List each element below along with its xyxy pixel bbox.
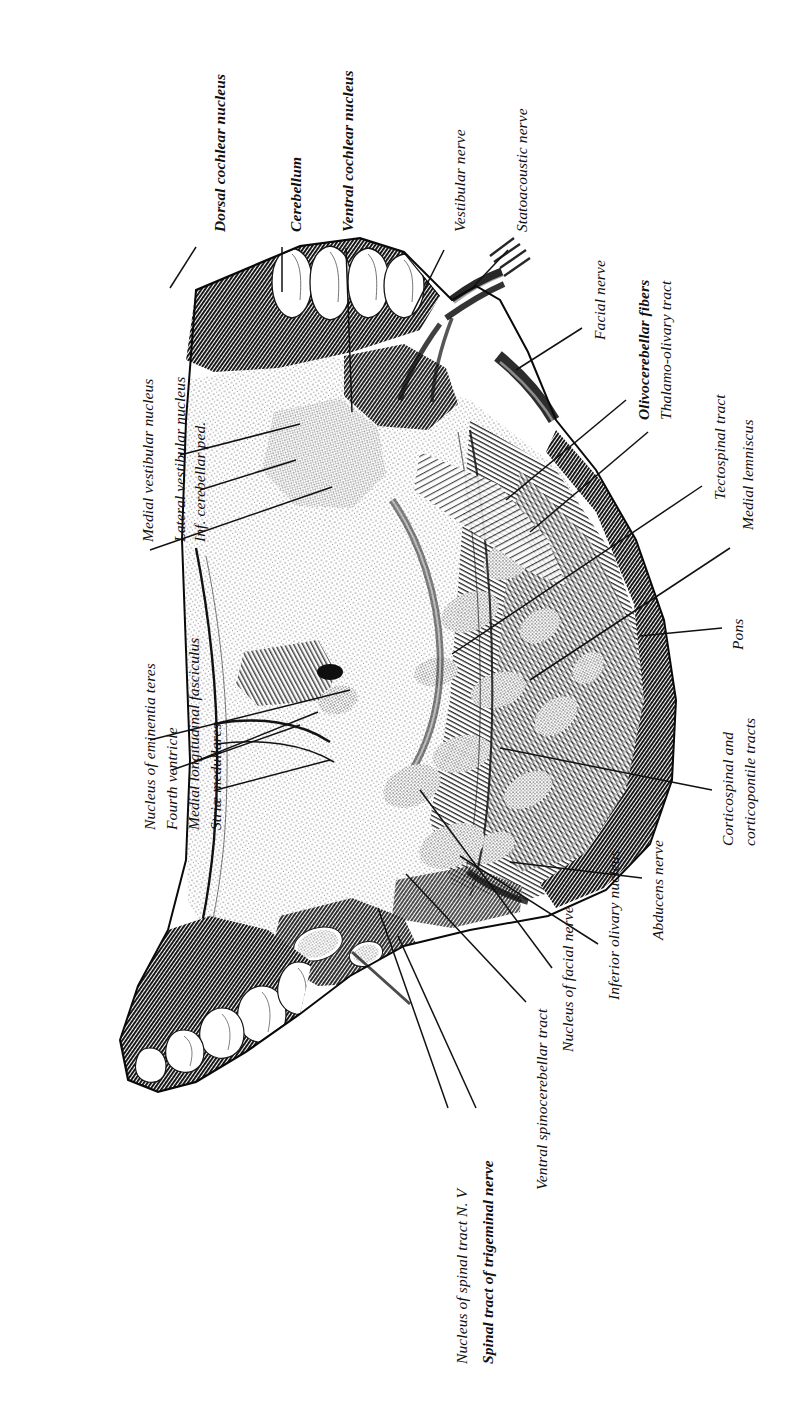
label-striae-medullares: Striæ medullares: [208, 723, 224, 830]
label-nucleus-of-facial-nerve: Nucleus of facial nerve: [560, 906, 576, 1052]
brainstem-section-illustration: [0, 0, 806, 1412]
label-facial-nerve: Facial nerve: [592, 260, 608, 340]
label-ventral-spinocerebellar-tract: Ventral spinocerebellar tract: [534, 1009, 550, 1190]
label-abducens-nerve: Abducens nerve: [650, 840, 666, 940]
label-spinal-tract-of-trigeminal-nerve: Spinal tract of trigeminal nerve: [480, 1160, 496, 1364]
label-ventral-cochlear-nucleus: Ventral cochlear nucleus: [340, 70, 356, 232]
label-fourth-ventricle: Fourth ventricle: [164, 727, 180, 830]
label-pons: Pons: [730, 619, 746, 650]
label-medial-longitudinal-fasciculus: Medial longitudinal fasciculus: [186, 638, 202, 830]
label-dorsal-cochlear-nucleus: Dorsal cochlear nucleus: [212, 74, 228, 232]
label-thalamo-olivary-tract: Thalamo-olivary tract: [658, 281, 674, 420]
anatomical-plate: Dorsal cochlear nucleusCerebellumVentral…: [0, 0, 806, 1412]
label-nucleus-of-eminentia-teres: Nucleus of eminentia teres: [142, 663, 158, 830]
label-corticospinal-corticopontile-2: corticopontile tracts: [742, 718, 758, 846]
label-medial-vestibular-nucleus: Medial vestibular nucleus: [140, 379, 156, 543]
label-inf-cerebellar-ped: Inf. cerebellar ped.: [192, 422, 208, 542]
label-lateral-vestibular-nucleus: Lateral vestibular nucleus: [172, 377, 188, 542]
label-inferior-olivary-nucleus: Inferior olivary nucleus: [606, 850, 622, 1000]
label-statoacoustic-nerve: Statoacoustic nerve: [514, 108, 530, 232]
label-olivocerebellar-fibers: Olivocerebellar fibers: [636, 280, 652, 420]
label-cerebellum: Cerebellum: [288, 157, 304, 232]
label-tectospinal-tract: Tectospinal tract: [712, 394, 728, 500]
label-vestibular-nerve: Vestibular nerve: [452, 129, 468, 232]
label-nucleus-of-spinal-tract-n5: Nucleus of spinal tract N. V: [454, 1189, 470, 1364]
label-corticospinal-corticopontile-1: Corticospinal and: [720, 732, 736, 846]
label-medial-lemniscus: Medial lemniscus: [740, 419, 756, 530]
